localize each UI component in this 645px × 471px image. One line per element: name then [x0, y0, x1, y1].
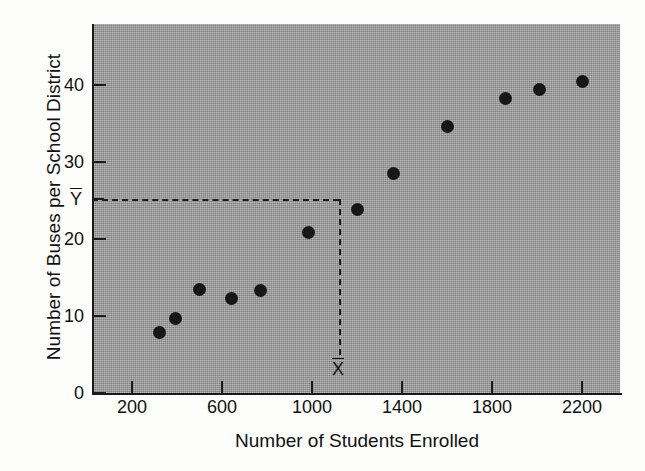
y-tick-0 [94, 392, 106, 394]
y-mean-guide-line [92, 199, 339, 201]
x-tick-label-1800: 1800 [457, 398, 527, 416]
data-point [225, 292, 238, 305]
x-tick-2200 [581, 381, 583, 393]
y-mean-overbar-text: Y [70, 188, 82, 208]
data-point [254, 284, 267, 297]
y-tick-40 [94, 84, 106, 86]
data-point [387, 167, 400, 180]
x-tick-200 [131, 381, 133, 393]
y-axis-title: Number of Buses per School District [43, 7, 65, 407]
data-point [533, 83, 546, 96]
x-tick-label-1000: 1000 [277, 398, 347, 416]
y-tick-20 [94, 238, 106, 240]
x-tick-1800 [491, 381, 493, 393]
x-tick-1000 [311, 381, 313, 393]
y-mean-tick [94, 198, 104, 200]
data-point [576, 75, 589, 88]
x-axis-line [92, 393, 622, 395]
x-tick-label-2200: 2200 [547, 398, 617, 416]
data-point [153, 326, 166, 339]
x-tick-600 [221, 381, 223, 393]
x-mean-guide-line [339, 199, 341, 355]
y-tick-10 [94, 315, 106, 317]
y-tick-30 [94, 161, 106, 163]
x-tick-label-600: 600 [187, 398, 257, 416]
x-tick-1400 [401, 381, 403, 393]
y-mean-label: Y [70, 188, 82, 208]
data-point [441, 120, 454, 133]
x-mean-label: X [332, 358, 344, 378]
x-tick-label-1400: 1400 [367, 398, 437, 416]
scatter-plot-figure: 010203040 2006001000140018002200 Y X Num… [0, 0, 645, 471]
y-axis-line [92, 24, 94, 395]
x-mean-overbar-text: X [332, 358, 344, 378]
data-point [351, 203, 364, 216]
x-axis-title: Number of Students Enrolled [94, 430, 620, 452]
x-tick-label-200: 200 [97, 398, 167, 416]
